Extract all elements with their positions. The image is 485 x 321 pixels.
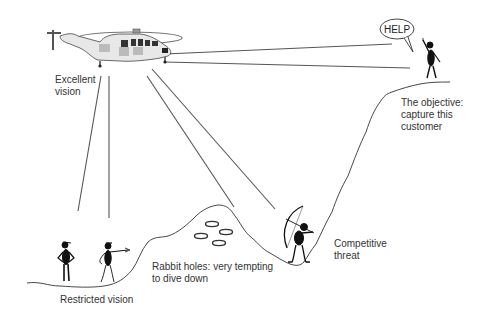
sight-line-to-customer	[165, 62, 410, 68]
sight-line-to-rabbit-holes	[147, 76, 234, 207]
label-excellent-vision: Excellent vision	[55, 74, 96, 98]
label-rabbit-holes: Rabbit holes: very tempting to dive down	[152, 261, 273, 285]
sight-lines	[78, 44, 410, 218]
speech-bubble-text: HELP	[384, 24, 410, 35]
stick-figure-waving-icon	[423, 38, 440, 78]
rabbit-hole	[195, 233, 208, 238]
diagram-canvas: HELP	[0, 0, 485, 321]
label-competitive-threat: Competitive threat	[334, 238, 387, 262]
label-restricted-vision: Restricted vision	[60, 294, 133, 306]
label-objective: The objective: capture this customer	[401, 97, 463, 133]
stick-figure-restricted-left-icon	[58, 242, 74, 281]
speech-bubble: HELP	[380, 19, 414, 52]
helicopter-icon	[47, 29, 182, 68]
rabbit-holes	[195, 221, 233, 245]
rabbit-hole	[220, 229, 233, 234]
sight-line-to-help	[165, 44, 392, 54]
rabbit-hole	[213, 240, 226, 245]
rabbit-hole	[206, 221, 219, 226]
sight-line-to-competitor	[152, 69, 275, 209]
